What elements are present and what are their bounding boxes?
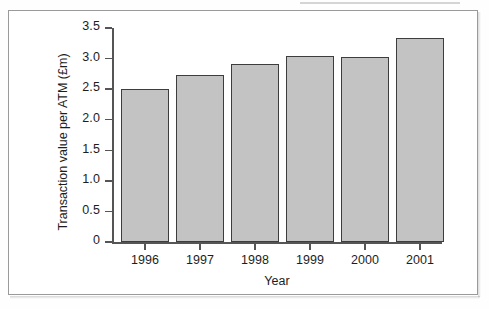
y-tick-label: 2.0 — [82, 111, 105, 125]
y-tick-label: 0.5 — [82, 203, 105, 217]
x-tick-mark — [309, 243, 311, 250]
x-tick-mark — [144, 243, 146, 250]
bar-2001 — [396, 38, 444, 242]
x-tick-label-1999: 1999 — [280, 253, 340, 267]
y-tick: 3.5 — [105, 27, 112, 29]
bar-1999 — [286, 56, 334, 242]
bar-1997 — [176, 75, 224, 242]
bar-1996 — [121, 89, 169, 242]
x-tick-label-1997: 1997 — [170, 253, 230, 267]
y-tick: 0.5 — [105, 211, 112, 213]
x-tick-mark — [254, 243, 256, 250]
y-tick-label: 0 — [93, 233, 105, 247]
x-tick-mark — [364, 243, 366, 250]
x-tick-label-2000: 2000 — [335, 253, 395, 267]
figure-page: 00.51.01.52.02.53.03.5 19961997199819992… — [0, 0, 489, 309]
y-tick-label: 1.0 — [82, 172, 105, 186]
y-tick-mark — [105, 211, 112, 213]
bar-2000 — [341, 57, 389, 242]
y-tick-mark — [105, 88, 112, 90]
y-tick-label: 3.5 — [82, 19, 105, 33]
y-tick-label: 2.5 — [82, 80, 105, 94]
y-tick-label: 3.0 — [82, 50, 105, 64]
x-tick-label-1998: 1998 — [225, 253, 285, 267]
y-tick: 1.5 — [105, 150, 112, 152]
x-tick-label-1996: 1996 — [115, 253, 175, 267]
x-tick-mark — [199, 243, 201, 250]
bar-chart-plot: 00.51.01.52.02.53.03.5 19961997199819992… — [0, 0, 489, 309]
y-tick-mark — [105, 58, 112, 60]
bar-1998 — [231, 64, 279, 242]
x-tick-mark — [419, 243, 421, 250]
x-tick-label-2001: 2001 — [390, 253, 450, 267]
y-tick-mark — [105, 119, 112, 121]
y-tick: 2.0 — [105, 119, 112, 121]
y-axis-line — [112, 28, 114, 242]
y-tick-mark — [105, 27, 112, 29]
y-tick-mark — [105, 150, 112, 152]
x-axis-line — [112, 242, 442, 244]
x-axis-title: Year — [112, 274, 442, 288]
y-tick-mark — [105, 180, 112, 182]
y-tick-label: 1.5 — [82, 142, 105, 156]
y-tick-mark — [105, 241, 112, 243]
y-tick: 3.0 — [105, 58, 112, 60]
y-tick: 2.5 — [105, 88, 112, 90]
y-tick: 0 — [105, 241, 112, 243]
y-tick: 1.0 — [105, 180, 112, 182]
y-axis-title: Transaction value per ATM (£m) — [56, 27, 70, 257]
